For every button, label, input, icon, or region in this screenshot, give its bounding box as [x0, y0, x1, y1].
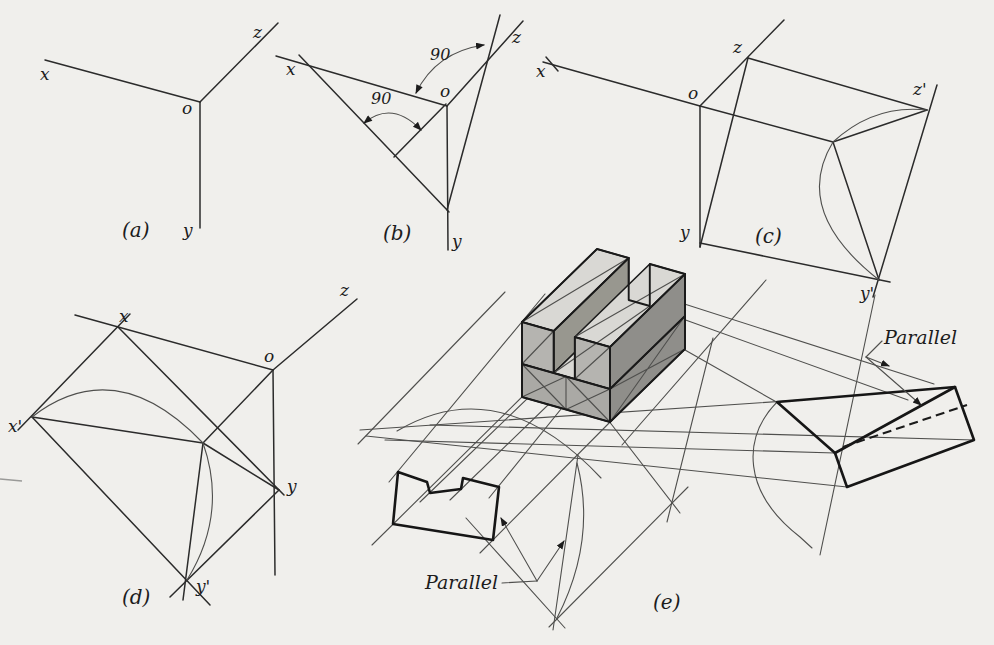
label-y-prime: y': [859, 283, 874, 303]
axis-label-z: z: [339, 280, 350, 300]
origin-label: o: [182, 98, 192, 118]
paper-background: [0, 0, 994, 645]
axis-label-x: x: [40, 64, 50, 84]
diagram-canvas: x z o y (a) 90 90 x z o y (b): [0, 0, 994, 645]
axis-label-x: x: [119, 306, 129, 326]
label-z-prime: z': [912, 79, 927, 99]
origin-label: o: [264, 346, 274, 366]
origin-label: o: [688, 83, 698, 103]
y-axis-line: [447, 106, 448, 250]
label-x-prime: x': [8, 416, 22, 436]
caption-d: (d): [122, 585, 150, 609]
axis-label-z: z: [252, 22, 263, 42]
angle-value-middle: 90: [371, 89, 391, 108]
origin-label: o: [440, 81, 450, 101]
caption-b: (b): [383, 221, 411, 245]
caption-a: (a): [122, 218, 150, 242]
axis-label-x: x: [536, 61, 546, 81]
parallel-label: Parallel: [424, 571, 498, 593]
axis-label-z: z: [732, 37, 743, 57]
axis-label-x: x: [286, 59, 296, 79]
figure-page: x z o y (a) 90 90 x z o y (b): [0, 0, 994, 645]
parallel-label: Parallel: [883, 326, 957, 348]
caption-e: (e): [653, 590, 680, 614]
axis-label-y: y: [679, 222, 690, 242]
axis-label-y: y: [451, 231, 462, 251]
label-y-prime: y': [195, 576, 210, 596]
caption-c: (c): [755, 224, 782, 248]
axis-label-y: y: [286, 476, 297, 496]
axis-label-y: y: [182, 220, 193, 240]
angle-value-top: 90: [430, 45, 450, 64]
axis-label-z: z: [511, 27, 522, 47]
